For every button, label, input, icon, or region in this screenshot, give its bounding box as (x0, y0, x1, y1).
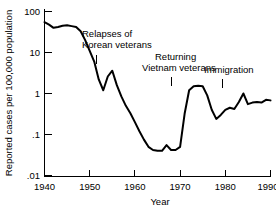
y-axis-title: Reported cases per 100,000 population (3, 10, 14, 176)
y-tick-label-0.01: .01 (27, 170, 40, 181)
annotation-korean-line2: Korean veterans (82, 39, 152, 50)
data-series-line (45, 22, 271, 151)
x-tick-label-1950: 1950 (79, 181, 100, 192)
annotation-immigration: Immigration (204, 64, 254, 88)
y-tick-label-100: 100 (24, 6, 40, 17)
annotation-immigration-line1: Immigration (204, 64, 254, 75)
annotation-korean-line1: Relapses of (82, 28, 133, 39)
y-tick-label-0.1: .1 (32, 129, 40, 140)
line-chart: 100 10 1 .1 .01 Reported cases per 100,0… (0, 0, 276, 217)
x-tick-label-1960: 1960 (124, 181, 145, 192)
x-tick-label-1990: 1990 (257, 181, 276, 192)
x-tick-label-1970: 1970 (170, 181, 191, 192)
y-axis: 100 10 1 .1 .01 Reported cases per 100,0… (3, 6, 52, 181)
y-tick-label-1: 1 (35, 88, 40, 99)
x-axis: 1940 1950 1960 1970 1980 1990 Year (34, 170, 276, 208)
x-axis-title: Year (150, 196, 169, 207)
y-tick-label-10: 10 (29, 47, 40, 58)
x-tick-label-1980: 1980 (215, 181, 236, 192)
x-tick-label-1940: 1940 (34, 181, 55, 192)
annotation-vietnam-line1: Returning (155, 51, 196, 62)
chart-container: 100 10 1 .1 .01 Reported cases per 100,0… (0, 0, 276, 217)
